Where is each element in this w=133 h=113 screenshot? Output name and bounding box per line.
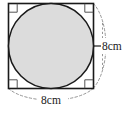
dimension-label-right: 8cm: [102, 40, 122, 52]
dimension-label-bottom: 8cm: [41, 94, 61, 106]
geometry-figure: 8cm 8cm: [0, 0, 133, 113]
figure-canvas: 8cm 8cm: [0, 0, 133, 113]
astroid-star-shape: [9, 4, 94, 89]
